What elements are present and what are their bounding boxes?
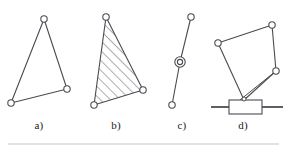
link-d-upper-left-to-upper-right xyxy=(218,25,272,43)
link-c-upper-segment xyxy=(180,17,191,62)
joint-a-lower-right xyxy=(64,86,70,92)
joint-c-upper-end xyxy=(188,14,194,20)
link-a-lower-left-to-apex xyxy=(11,19,44,103)
link-d-coupler-inner-brace xyxy=(240,71,276,100)
panel-d-links xyxy=(218,25,276,100)
panel-a-joints xyxy=(8,16,70,106)
figure-root: a) b) c) d) xyxy=(0,0,287,151)
mechanism-diagram-canvas xyxy=(0,0,287,151)
panel-a-links xyxy=(11,19,67,103)
link-a-apex-to-lower-right xyxy=(44,19,67,89)
joint-b-apex xyxy=(103,14,109,20)
panel-c-binary-link xyxy=(169,14,194,108)
panel-b-hatched-triangle-link xyxy=(88,10,152,114)
joint-a-lower-left xyxy=(8,100,14,106)
joint-b-lower-left xyxy=(91,102,97,108)
link-d-upper-right-to-right-lower xyxy=(272,25,276,71)
joint-b-lower-right xyxy=(140,87,146,93)
joint-d-right-lower xyxy=(273,68,279,74)
joint-d-upper-left xyxy=(215,40,221,46)
link-d-slider-pin-to-upper-left xyxy=(218,43,244,100)
joint-c-lower-end xyxy=(169,102,175,108)
joint-d-slider-pin xyxy=(242,97,246,101)
panel-b-hatch-fill xyxy=(88,10,152,114)
panel-c-joints xyxy=(169,14,194,108)
joint-a-apex xyxy=(41,16,47,22)
link-a-lower-right-to-lower-left xyxy=(11,89,67,103)
joint-c-middle-pivot-inner xyxy=(177,59,182,64)
link-c-lower-segment xyxy=(172,62,180,105)
joint-d-upper-right xyxy=(269,22,275,28)
panel-d-slider-linkage xyxy=(211,22,283,114)
slider-block xyxy=(229,100,262,114)
panel-a-open-triangle-link xyxy=(8,16,70,106)
